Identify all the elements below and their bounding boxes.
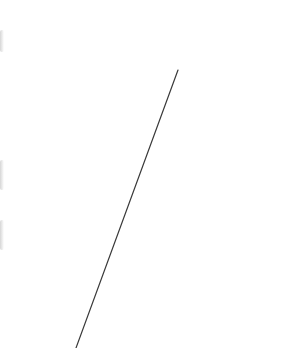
diagonal-line-graphic <box>0 0 295 348</box>
drawing-canvas <box>0 0 295 348</box>
edge-mark <box>0 160 4 190</box>
edge-mark <box>0 220 4 250</box>
edge-mark <box>0 30 4 52</box>
diagonal-line <box>76 70 178 348</box>
